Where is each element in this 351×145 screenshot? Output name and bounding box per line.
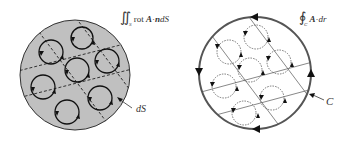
dr-text: dr: [319, 14, 327, 24]
c-pointer: [313, 95, 324, 100]
surface-disk: [10, 10, 160, 140]
ds-label: dS: [136, 103, 146, 114]
line-integral-formula: ∮C A·dr: [299, 9, 327, 27]
contour-c-label: C: [326, 95, 333, 107]
ds-text: dS: [160, 14, 169, 24]
integral-subscript: C: [304, 22, 307, 27]
integral-subscript: S: [129, 22, 132, 27]
rot-text: rot: [134, 14, 146, 24]
surface-integral-formula: ∬S rot A·ndS: [120, 9, 169, 27]
